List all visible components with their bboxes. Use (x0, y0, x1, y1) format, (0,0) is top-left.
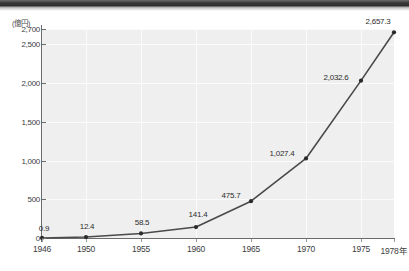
y-axis-tick-mark (42, 83, 46, 84)
x-axis-tick-label: 1978年 (381, 244, 408, 256)
x-axis-tick-label: 1955 (132, 244, 150, 254)
data-point-marker (194, 225, 198, 229)
y-axis-tick-mark (42, 29, 46, 30)
x-axis-tick-mark (394, 239, 395, 242)
x-axis-tick-mark (361, 239, 362, 242)
data-point-value-label: 1,027.4 (270, 149, 295, 158)
line-series-svg (0, 11, 409, 271)
chart-figure: (億円) 05001,0001,5002,0002,5002,700 19461… (0, 11, 409, 271)
x-axis-tick-mark (306, 239, 307, 242)
x-axis-tick-mark (141, 239, 142, 242)
y-axis-tick-mark (42, 199, 46, 200)
scanned-page-top-edge (0, 0, 409, 8)
x-axis-tick-label: 1960 (187, 244, 205, 254)
data-point-marker (392, 30, 396, 34)
y-axis-tick-mark (42, 122, 46, 123)
x-axis-tick-label: 1950 (77, 244, 95, 254)
data-point-marker (249, 199, 253, 203)
data-point-value-label: 12.4 (80, 222, 95, 231)
data-point-value-label: 141.4 (189, 210, 208, 219)
data-point-value-label: 2,032.6 (324, 72, 349, 81)
x-axis-tick-mark (251, 239, 252, 242)
data-point-value-label: 0.9 (39, 223, 49, 232)
x-axis-tick-label: 1965 (242, 244, 260, 254)
y-axis-tick-mark (42, 44, 46, 45)
x-axis-tick-mark (196, 239, 197, 242)
series-line (42, 32, 394, 238)
x-axis-tick-label: 1946 (33, 244, 51, 254)
x-axis-tick-label: 1970 (297, 244, 315, 254)
x-axis-tick-label: 1975 (352, 244, 370, 254)
y-axis-tick-mark (42, 161, 46, 162)
series-markers (40, 30, 396, 240)
data-point-marker (359, 79, 363, 83)
data-point-value-label: 58.5 (135, 218, 150, 227)
data-point-value-label: 475.7 (222, 191, 241, 200)
data-point-value-label: 2,657.3 (366, 17, 391, 26)
data-point-marker (304, 156, 308, 160)
data-point-marker (139, 231, 143, 235)
x-axis-tick-mark (42, 239, 43, 242)
x-axis-tick-mark (86, 239, 87, 242)
